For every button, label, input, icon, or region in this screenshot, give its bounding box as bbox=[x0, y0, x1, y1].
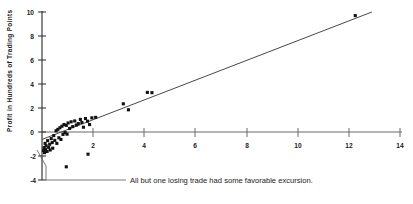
data-point bbox=[52, 134, 55, 137]
data-point-group bbox=[42, 14, 357, 168]
data-point bbox=[68, 127, 71, 130]
x-tick-label-6: 6 bbox=[193, 142, 197, 149]
data-point bbox=[88, 123, 91, 126]
x-tick-label-4: 4 bbox=[142, 142, 146, 149]
data-point bbox=[82, 126, 85, 129]
data-point bbox=[90, 116, 93, 119]
data-point bbox=[354, 14, 357, 17]
data-point bbox=[84, 117, 87, 120]
y-tick-label-2: 2 bbox=[30, 105, 34, 112]
data-point bbox=[46, 150, 49, 153]
data-point bbox=[122, 102, 125, 105]
chart-container: Profit in Hundreds of Trading Points 10 … bbox=[0, 0, 413, 204]
data-point bbox=[94, 116, 97, 119]
data-point bbox=[86, 120, 89, 123]
data-point bbox=[51, 147, 54, 150]
data-point bbox=[146, 91, 149, 94]
annotation-excursion-note: All but one losing trade had some favora… bbox=[130, 176, 313, 185]
data-point bbox=[55, 142, 58, 145]
data-point bbox=[47, 146, 50, 149]
data-point bbox=[46, 139, 49, 142]
y-tick-label-0: 0 bbox=[30, 129, 34, 136]
x-tick-label-12: 12 bbox=[345, 142, 353, 149]
annotation-leader-line bbox=[37, 150, 126, 180]
y-tick-label-neg2: -2 bbox=[30, 153, 36, 160]
data-point bbox=[70, 120, 73, 123]
data-point bbox=[71, 125, 74, 128]
data-point bbox=[66, 133, 69, 136]
y-tick-label-10: 10 bbox=[27, 9, 35, 16]
data-point bbox=[59, 138, 62, 141]
x-tick-label-2: 2 bbox=[91, 142, 95, 149]
data-point bbox=[73, 119, 76, 122]
y-tick-label-6: 6 bbox=[30, 57, 34, 64]
data-point bbox=[53, 139, 56, 142]
x-tick-label-10: 10 bbox=[294, 142, 302, 149]
y-axis-label: Profit in Hundreds of Trading Points bbox=[6, 10, 14, 132]
data-point bbox=[80, 121, 83, 124]
y-tick-label-8: 8 bbox=[30, 33, 34, 40]
data-point bbox=[67, 121, 70, 124]
data-point bbox=[150, 91, 153, 94]
regression-line bbox=[42, 12, 372, 139]
y-tick-label-neg4: -4 bbox=[30, 177, 36, 184]
data-point bbox=[65, 165, 68, 168]
data-point bbox=[50, 137, 53, 140]
data-point bbox=[127, 108, 130, 111]
data-point bbox=[86, 153, 89, 156]
x-tick-label-8: 8 bbox=[245, 142, 249, 149]
data-point bbox=[79, 118, 82, 121]
x-tick-label-14: 14 bbox=[396, 142, 404, 149]
scatter-plot: Profit in Hundreds of Trading Points 10 … bbox=[0, 0, 413, 204]
y-tick-label-4: 4 bbox=[30, 81, 34, 88]
data-point bbox=[77, 122, 80, 125]
